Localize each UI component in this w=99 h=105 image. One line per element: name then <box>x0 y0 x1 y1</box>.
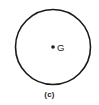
centroid-label: G <box>57 42 64 53</box>
centroid-point <box>51 45 55 49</box>
figure-caption: (c) <box>0 90 99 99</box>
